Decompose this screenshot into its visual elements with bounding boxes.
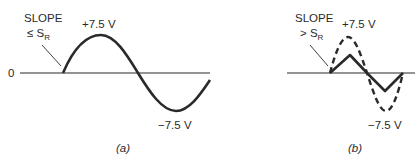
trough-label: −7.5 V [158, 119, 192, 131]
trough-label: −7.5 V [368, 119, 402, 131]
panel-b: SLOPE > SR +7.5 V −7.5 V (b) [287, 12, 415, 154]
slew-rate-diagram: 0 SLOPE ≤ SR +7.5 V −7.5 V (a) SLOPE > S… [0, 0, 415, 166]
caption-a: (a) [116, 142, 130, 154]
peak-label: +7.5 V [82, 18, 116, 30]
slope-label: SLOPE [24, 12, 63, 24]
slope-label: SLOPE [295, 12, 334, 24]
zero-label: 0 [8, 67, 14, 79]
slope-condition: > SR [300, 27, 324, 42]
slope-pointer-arrow [310, 45, 328, 66]
panel-a: 0 SLOPE ≤ SR +7.5 V −7.5 V (a) [8, 12, 210, 154]
peak-label: +7.5 V [342, 18, 376, 30]
slope-pointer-arrow [42, 45, 61, 66]
caption-b: (b) [348, 142, 362, 154]
slope-condition: ≤ SR [27, 27, 50, 42]
